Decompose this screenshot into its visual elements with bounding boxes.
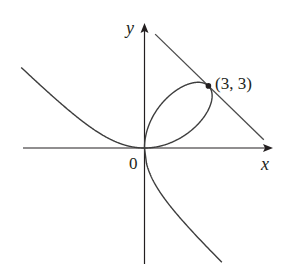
x-axis-label: x: [260, 154, 269, 174]
y-axis-label: y: [124, 18, 134, 38]
folium-loop-curve: [145, 82, 213, 148]
tangent-point-marker: [206, 83, 212, 89]
origin-label: 0: [129, 154, 138, 173]
folium-figure: y x 0 (3, 3): [0, 0, 293, 278]
point-label: (3, 3): [215, 74, 252, 93]
folium-left-branch: [21, 67, 144, 148]
folium-lower-branch: [145, 148, 222, 262]
